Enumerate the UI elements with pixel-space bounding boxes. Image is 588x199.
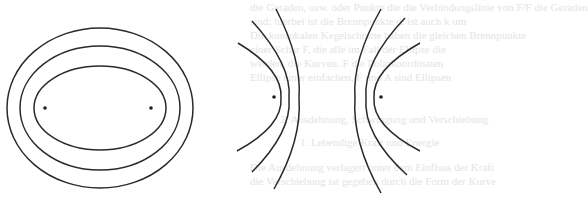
ellipse-inner (34, 66, 166, 150)
hyperbola-left-middle (252, 21, 289, 172)
hyperbola-left-inner (274, 9, 299, 189)
hyperbola-right-inner (355, 9, 381, 193)
ellipse-outer (7, 28, 193, 188)
confocal-ellipses (7, 28, 193, 188)
focus-dot (379, 95, 383, 99)
focus-dot (272, 95, 276, 99)
focus-dot (149, 106, 153, 110)
focus-dot (43, 106, 47, 110)
focus-points (43, 95, 383, 110)
confocal-hyperbolas (237, 9, 420, 193)
hyperbola-right-middle (366, 18, 407, 175)
